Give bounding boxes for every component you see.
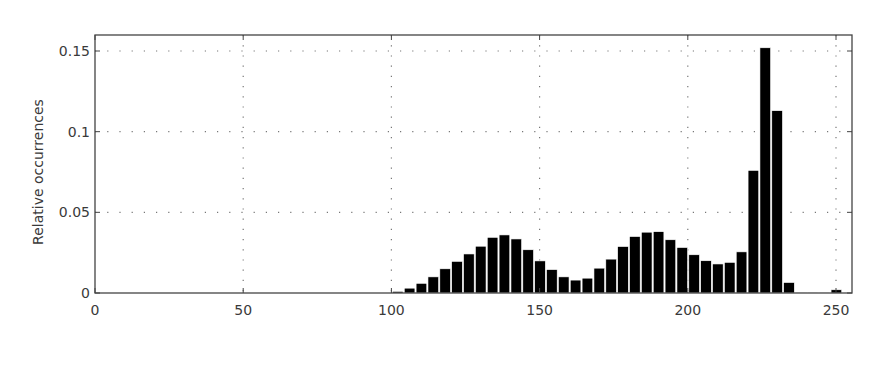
histogram-bars xyxy=(392,48,841,293)
histogram-bar xyxy=(630,237,641,293)
histogram-bar xyxy=(499,235,510,293)
histogram-bar xyxy=(570,280,581,293)
histogram-bar xyxy=(606,259,617,293)
histogram-bar xyxy=(428,277,439,293)
histogram-bar xyxy=(416,283,427,293)
y-tick-label: 0.05 xyxy=(59,204,90,220)
x-tick-label: 200 xyxy=(674,302,701,318)
histogram-bar xyxy=(487,237,498,293)
histogram-bar xyxy=(523,250,534,293)
histogram-bar xyxy=(511,239,522,293)
y-tick-label: 0.1 xyxy=(68,124,90,140)
histogram-bar xyxy=(760,48,771,293)
histogram-bar xyxy=(558,277,569,293)
histogram-bar xyxy=(784,283,795,293)
x-tick-label: 0 xyxy=(91,302,100,318)
x-tick-label: 50 xyxy=(234,302,252,318)
histogram-bar xyxy=(452,261,463,293)
histogram-bar xyxy=(724,262,735,293)
x-tick-label: 100 xyxy=(378,302,405,318)
histogram-bar xyxy=(547,270,558,293)
histogram-chart: 050100150200250 00.050.10.15 Relative oc… xyxy=(0,0,881,379)
x-axis-tick-labels: 050100150200250 xyxy=(91,302,850,318)
histogram-bar xyxy=(440,269,451,293)
histogram-bar xyxy=(713,264,724,293)
histogram-bar xyxy=(689,255,700,293)
y-tick-label: 0 xyxy=(81,285,90,301)
histogram-bar xyxy=(475,246,486,293)
histogram-bar xyxy=(677,248,688,293)
histogram-bar xyxy=(582,278,593,293)
histogram-bar xyxy=(641,232,652,293)
histogram-bar xyxy=(748,170,759,293)
y-axis-title: Relative occurrences xyxy=(30,99,46,245)
histogram-bar xyxy=(665,240,676,293)
x-tick-label: 250 xyxy=(823,302,850,318)
y-tick-label: 0.15 xyxy=(59,43,90,59)
histogram-bar xyxy=(653,232,664,293)
histogram-bar xyxy=(594,268,605,293)
histogram-bar xyxy=(736,252,747,293)
histogram-bar xyxy=(618,247,629,293)
histogram-bar xyxy=(772,111,783,293)
y-axis-tick-labels: 00.050.10.15 xyxy=(59,43,90,301)
histogram-bar xyxy=(464,254,475,293)
histogram-bar xyxy=(701,261,712,293)
histogram-bar xyxy=(404,288,415,293)
x-tick-label: 150 xyxy=(526,302,553,318)
